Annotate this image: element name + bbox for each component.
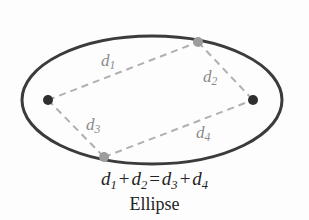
focus-left-point <box>43 95 53 105</box>
equation-term-2: d <box>131 168 141 189</box>
equation-term-3-sub: 3 <box>171 178 177 192</box>
equation-term-4-sub: 4 <box>202 178 208 192</box>
segment-d4 <box>104 100 253 157</box>
ellipse-outline <box>22 36 282 164</box>
label-d1-base: d <box>101 51 110 70</box>
equation-plus-2: + <box>178 168 193 189</box>
label-d4-base: d <box>196 123 205 142</box>
focus-right-point <box>248 95 258 105</box>
equation-term-1-sub: 1 <box>110 178 116 192</box>
label-d1-sub: 1 <box>110 59 116 72</box>
equation-plus-1: + <box>117 168 132 189</box>
figure-caption: Ellipse <box>0 195 309 213</box>
label-d2-sub: 2 <box>212 75 218 88</box>
equation-equals: = <box>147 168 162 189</box>
equation-term-1: d <box>101 168 111 189</box>
label-d3: d3 <box>86 116 100 136</box>
ellipse-point-bottom <box>99 152 109 162</box>
ellipse-equation: d1+d2=d3+d4 <box>0 169 309 191</box>
label-d4-sub: 4 <box>205 131 211 144</box>
equation-term-3: d <box>162 168 172 189</box>
equation-term-4: d <box>192 168 202 189</box>
label-d1: d1 <box>101 52 115 72</box>
label-d2-base: d <box>203 67 212 86</box>
label-d2: d2 <box>203 68 217 88</box>
label-d3-base: d <box>86 115 95 134</box>
label-d3-sub: 3 <box>95 123 101 136</box>
ellipse-figure: d1 d2 d3 d4 d1+d2=d3+d4 Ellipse <box>0 0 309 220</box>
label-d4: d4 <box>196 124 210 144</box>
ellipse-point-top <box>193 37 203 47</box>
